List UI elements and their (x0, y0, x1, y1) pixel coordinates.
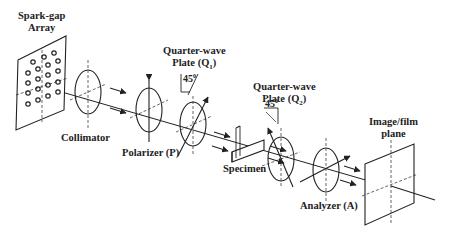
label-q2: Quarter-wave Plate (Q2) (253, 81, 316, 109)
label-polarizer: Polarizer (P) (122, 147, 179, 159)
quarter-wave-plate-1 (176, 74, 212, 156)
degree: 0 (193, 73, 196, 79)
label-line: Plate (Q2) (253, 93, 316, 109)
label-line: Array (18, 22, 65, 34)
label-image-plane: Image/film plane (369, 116, 418, 140)
analyzer (300, 138, 350, 202)
label-q1: Quarter-wave Plate (Q1) (163, 45, 226, 73)
label-line: plane (369, 128, 418, 140)
label-specimen: Specimen (223, 163, 266, 175)
label-line: Image/film (369, 116, 418, 128)
label-text: ) (303, 93, 307, 104)
collimator-lens (70, 60, 106, 128)
label-text: Plate (Q (172, 57, 209, 68)
label-line: Quarter-wave (253, 81, 316, 93)
quarter-wave-plate-2 (262, 108, 300, 187)
degree: 0 (275, 98, 278, 104)
label-text: ) (213, 57, 217, 68)
label-line: Plate (Q1) (163, 57, 226, 73)
spark-gap-array (16, 36, 68, 130)
q1-angle: 450 (183, 73, 196, 84)
image-film-plane (362, 140, 435, 225)
label-analyzer: Analyzer (A) (300, 200, 358, 212)
label-line: Quarter-wave (163, 45, 226, 57)
specimen (232, 126, 264, 162)
label-collimator: Collimator (61, 132, 110, 144)
label-line: Spark-gap (18, 10, 65, 22)
polarizer (130, 80, 168, 142)
label-spark-gap-array: Spark-gap Array (18, 10, 65, 34)
angle-value: 45 (183, 73, 193, 84)
q2-angle: 450 (265, 98, 278, 109)
angle-value: 45 (265, 98, 275, 109)
